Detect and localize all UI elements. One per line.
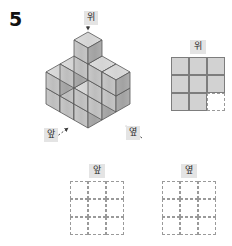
view-label-row-front: 앞 (62, 158, 132, 181)
grid-cell[interactable] (207, 57, 225, 75)
grid-cell[interactable] (189, 93, 207, 111)
view-label-front: 앞 (89, 164, 105, 178)
cube-stack (46, 32, 130, 128)
direction-label-side: 옆 (126, 126, 140, 140)
grid-cell[interactable] (198, 217, 216, 235)
grid-cell[interactable] (189, 57, 207, 75)
grid-cell[interactable] (189, 75, 207, 93)
grid-cell[interactable] (88, 199, 106, 217)
grid-cell[interactable] (180, 217, 198, 235)
grid-cell[interactable] (198, 181, 216, 199)
view-label-row-side: 옆 (152, 158, 226, 181)
view-panel-front: 앞 (62, 158, 132, 235)
grid-cell[interactable] (88, 217, 106, 235)
grid-cell[interactable] (207, 75, 225, 93)
grid-cell[interactable] (171, 57, 189, 75)
problem-number: 5 (9, 10, 22, 29)
view-grid-side[interactable] (162, 181, 216, 235)
view-label-side: 옆 (181, 164, 197, 178)
view-panel-side: 옆 (152, 158, 226, 235)
view-grid-front[interactable] (70, 181, 124, 235)
view-label-row-top: 위 (170, 34, 226, 57)
grid-cell[interactable] (70, 199, 88, 217)
grid-cell[interactable] (70, 217, 88, 235)
view-label-top: 위 (190, 40, 206, 54)
grid-cell[interactable] (106, 181, 124, 199)
grid-cell[interactable] (207, 93, 225, 111)
grid-cell[interactable] (70, 181, 88, 199)
view-grid-top[interactable] (171, 57, 225, 111)
grid-cell[interactable] (106, 217, 124, 235)
grid-cell[interactable] (162, 199, 180, 217)
grid-cell[interactable] (171, 93, 189, 111)
grid-cell[interactable] (171, 75, 189, 93)
grid-cell[interactable] (180, 181, 198, 199)
grid-cell[interactable] (88, 181, 106, 199)
grid-cell[interactable] (180, 199, 198, 217)
grid-cell[interactable] (106, 199, 124, 217)
direction-label-front: 앞 (44, 128, 58, 142)
view-panel-top: 위 (170, 34, 226, 111)
grid-cell[interactable] (162, 181, 180, 199)
direction-label-top: 위 (84, 11, 98, 25)
grid-cell[interactable] (198, 199, 216, 217)
grid-cell[interactable] (162, 217, 180, 235)
